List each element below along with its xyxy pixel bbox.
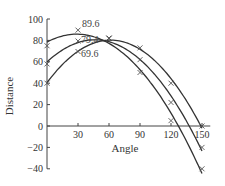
y-tick-label: 100	[28, 14, 43, 25]
y-tick-label: 20	[33, 99, 43, 110]
x-marker-icon	[169, 100, 174, 105]
y-tick-label: −20	[27, 142, 43, 153]
data-label: 79.4	[81, 34, 99, 45]
x-tick-label: 60	[104, 129, 114, 140]
annotations: 89.679.469.6	[81, 18, 100, 58]
x-marker-icon	[76, 49, 81, 54]
y-axis-label: Distance	[3, 77, 15, 116]
x-marker-icon	[169, 118, 174, 123]
x-marker-icon	[76, 28, 81, 33]
data-label: 69.6	[81, 48, 99, 59]
y-tick-label: 60	[33, 56, 43, 67]
data-label: 89.6	[82, 18, 100, 29]
series-line-3	[47, 40, 202, 128]
x-tick-label: 150	[195, 129, 210, 140]
x-axis-label: Angle	[112, 142, 139, 154]
x-tick-label: 90	[135, 129, 145, 140]
y-tick-label: 40	[33, 78, 43, 89]
y-tick-label: −40	[27, 163, 43, 174]
y-tick-label: 0	[38, 121, 43, 132]
chart: −40−20020406080100306090120150 89.679.46…	[0, 0, 225, 186]
x-marker-icon	[169, 81, 174, 86]
x-marker-icon	[138, 57, 143, 62]
x-tick-label: 30	[73, 129, 83, 140]
y-tick-label: 80	[33, 35, 43, 46]
x-tick-label: 120	[164, 129, 179, 140]
